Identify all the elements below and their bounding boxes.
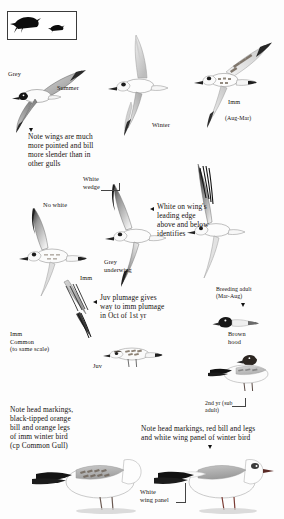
winter-adult-standing [152, 452, 278, 516]
label-summer: Summer [57, 84, 79, 92]
note-white-leading-edge: White on wing's leading edge above and b… [157, 202, 279, 238]
arrow-breeding-adult [241, 303, 245, 307]
note-juv-plumage: Juv plumage gives way to imm plumage in … [100, 293, 215, 320]
label-imm-mid: Imm [80, 274, 92, 282]
label-imm-common: Imm Common (to same scale) [10, 330, 49, 353]
label-imm: Imm [228, 98, 240, 106]
label-breeding-adult: Breeding adult (Mar-Aug) [216, 286, 252, 300]
note-head-markings-right: Note head markings, red bill and legs an… [141, 424, 284, 442]
white-wedge-leader-tick [119, 183, 120, 191]
label-no-white: No white [43, 201, 67, 209]
white-wedge-leader [101, 190, 120, 191]
winter-adult-in-flight [92, 32, 196, 142]
second-year-leader-tick [245, 398, 246, 407]
small-bird-silhouette [48, 25, 65, 34]
label-white-wedge: White wedge [83, 175, 100, 190]
label-juv: Juv [93, 362, 102, 370]
label-grey: Grey [8, 70, 21, 78]
note-head-markings-left: Note head markings, black-tipped orange … [10, 405, 132, 450]
juvenile-standing [98, 332, 166, 372]
label-brown-hood: Brown hood [228, 330, 246, 345]
arrow-juv-plumage [93, 300, 97, 304]
label-winter: Winter [152, 121, 170, 129]
large-bird-silhouette [10, 17, 41, 33]
size-comparison-box [7, 11, 77, 40]
arrow-leading-edge [150, 207, 154, 211]
label-grey-underwing: Grey underwing [104, 258, 132, 273]
winter-immature-standing [28, 452, 158, 516]
label-imm-months: (Aug-Mar) [225, 115, 251, 122]
immature-in-flight [186, 30, 284, 140]
arrow-to-winter-adult [208, 445, 212, 449]
field-guide-plate: Grey Summer Winter Imm (Aug-Mar) Note wi… [0, 0, 284, 519]
label-second-year: 2nd yr (sub adult) [205, 400, 233, 414]
size-comparison-silhouettes [8, 12, 74, 37]
second-year-leader [232, 406, 246, 407]
label-white-wing-panel: White wing panel [140, 488, 169, 503]
wing-panel-leader-tick [185, 483, 186, 503]
note-wings: Note wings are much more pointed and bil… [28, 132, 138, 168]
second-year-standing [206, 348, 282, 394]
